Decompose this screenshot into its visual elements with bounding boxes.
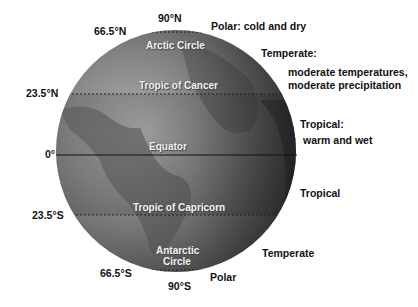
- globe-graphic: [0, 0, 418, 307]
- zone-polar-north: Polar: cold and dry: [211, 21, 306, 32]
- lat-66s: 66.5°S: [100, 268, 132, 279]
- lat-90n: 90°N: [158, 13, 181, 24]
- label-tropic-capricorn: Tropic of Capricorn: [133, 202, 225, 213]
- zone-temperate-south: Temperate: [262, 248, 314, 259]
- zone-temperate-north-desc2: moderate precipitation: [288, 80, 401, 91]
- zone-tropical-north-desc: warm and wet: [303, 135, 372, 146]
- lat-23s: 23.5°S: [32, 210, 64, 221]
- zone-temperate-north-desc1: moderate temperatures,: [288, 67, 408, 78]
- zone-tropical-south: Tropical: [300, 188, 340, 199]
- zone-tropical-north-title: Tropical:: [300, 119, 344, 130]
- label-antarctic-circle: Circle: [163, 256, 191, 267]
- lat-90s: 90°S: [168, 281, 191, 292]
- label-antarctic: Antarctic: [156, 245, 199, 256]
- zone-temperate-north-title: Temperate:: [261, 48, 317, 59]
- label-tropic-cancer: Tropic of Cancer: [139, 80, 218, 91]
- lat-66n: 66.5°N: [94, 26, 126, 37]
- label-arctic-circle: Arctic Circle: [146, 40, 205, 51]
- zone-polar-south: Polar: [210, 272, 236, 283]
- lat-23n: 23.5°N: [26, 88, 58, 99]
- label-equator: Equator: [149, 141, 187, 152]
- climate-zones-diagram: 90°N 66.5°N 23.5°N 0° 23.5°S 66.5°S 90°S…: [0, 0, 418, 307]
- lat-0: 0°: [45, 149, 55, 160]
